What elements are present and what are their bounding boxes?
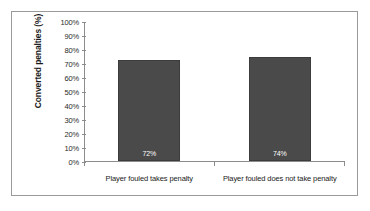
y-tick-label: 10%: [65, 144, 79, 153]
plot-area: 0%10%20%30%40%50%60%70%80%90%100%72%Play…: [84, 22, 345, 162]
y-tick-mark: [82, 120, 86, 121]
y-tick-label: 30%: [65, 116, 79, 125]
y-tick-label: 0%: [69, 158, 79, 167]
y-tick-label: 100%: [61, 18, 79, 27]
y-tick-mark: [82, 36, 86, 37]
y-tick-mark: [82, 148, 86, 149]
y-tick-label: 90%: [65, 32, 79, 41]
x-tick-mark: [214, 162, 215, 166]
chart-figure: Converted penalties (%) 0%10%20%30%40%50…: [11, 11, 358, 196]
y-tick-mark: [82, 22, 86, 23]
y-tick-label: 80%: [65, 46, 79, 55]
y-tick-mark: [82, 78, 86, 79]
x-tick-mark: [344, 162, 345, 166]
y-tick-mark: [82, 134, 86, 135]
x-tick-mark: [84, 162, 85, 166]
y-tick-mark: [82, 50, 86, 51]
bar: 72%: [118, 60, 180, 161]
x-category-label: Player fouled does not take penalty: [215, 174, 346, 184]
x-axis-line: [84, 161, 345, 162]
bar: 74%: [249, 57, 311, 161]
y-axis-title: Converted penalties (%): [33, 0, 47, 126]
bar-value-label: 74%: [250, 150, 310, 157]
x-category-label: Player fouled takes penalty: [84, 174, 215, 184]
y-tick-label: 50%: [65, 88, 79, 97]
bar-value-label: 72%: [119, 150, 179, 157]
y-tick-label: 20%: [65, 130, 79, 139]
y-tick-label: 60%: [65, 74, 79, 83]
y-tick-mark: [82, 106, 86, 107]
y-tick-label: 70%: [65, 60, 79, 69]
y-tick-mark: [82, 64, 86, 65]
y-tick-label: 40%: [65, 102, 79, 111]
y-tick-mark: [82, 92, 86, 93]
